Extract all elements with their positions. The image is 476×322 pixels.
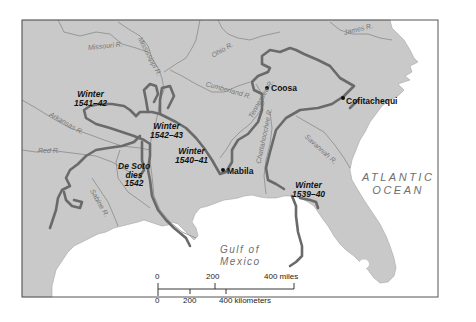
atlantic-line2: OCEAN	[362, 185, 434, 196]
scale-km-200: 200	[183, 297, 196, 305]
desoto-dies-label: De Soto dies 1542	[118, 162, 150, 188]
winter-label-years: 1542–43	[150, 131, 183, 140]
atlantic-ocean-label: ATLANTIC OCEAN	[362, 172, 434, 196]
scale-km-0: 0	[155, 297, 159, 305]
atlantic-line1: ATLANTIC	[362, 172, 434, 183]
lake-okeechobee	[359, 260, 369, 269]
winter-label-years: 1539–40	[292, 190, 325, 199]
winter-1541-42-label: Winter 1541–42	[74, 90, 107, 107]
gulf-line2: Mexico	[220, 257, 261, 267]
desoto-dies-year: 1542	[118, 179, 150, 188]
cofitachequi-marker-icon	[341, 96, 345, 100]
scale-km-400: 400 kilometers	[219, 297, 271, 305]
winter-1540-41-label: Winter 1540–41	[175, 147, 208, 164]
cofitachequi-label: Cofitachequi	[346, 97, 397, 106]
scale-miles-0: 0	[155, 273, 159, 281]
mabila-label: Mabila	[227, 167, 253, 176]
winter-1539-40-label: Winter 1539–40	[292, 181, 325, 198]
coosa-label: Coosa	[271, 84, 297, 93]
red-river-label: Red R.	[38, 147, 60, 154]
scale-miles-400: 400 miles	[264, 273, 298, 281]
gulf-of-mexico-label: Gulf of Mexico	[220, 245, 261, 267]
gulf-line1: Gulf of	[220, 245, 261, 255]
map-canvas	[0, 0, 476, 322]
winter-label-years: 1540–41	[175, 156, 208, 165]
winter-label-years: 1541–42	[74, 99, 107, 108]
mabila-marker-icon	[221, 168, 225, 172]
scale-miles-200: 200	[206, 273, 219, 281]
winter-1542-43-label: Winter 1542–43	[150, 122, 183, 139]
